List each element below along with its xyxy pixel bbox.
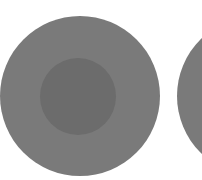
inner-circle-left [40,58,116,135]
outer-circle-right [177,16,202,176]
